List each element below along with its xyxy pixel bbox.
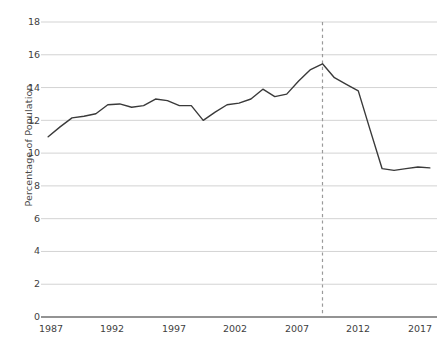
line-chart: Percentage of Population 18 16 14 12 10 … [0,0,448,345]
plot-area [0,0,448,345]
data-series-line [48,64,430,171]
